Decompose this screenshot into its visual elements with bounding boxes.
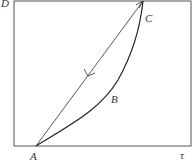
cycle-diagram: D C B A τ [0,0,192,164]
point-label-c: C [145,12,153,24]
point-label-a: A [29,150,37,162]
direction-arrow-icon [84,69,95,76]
point-label-b: B [111,93,118,105]
x-axis-label: τ [180,149,185,161]
straight-path-c-to-a [36,1,143,146]
y-axis-label: D [0,0,9,9]
plot-frame [14,1,191,146]
